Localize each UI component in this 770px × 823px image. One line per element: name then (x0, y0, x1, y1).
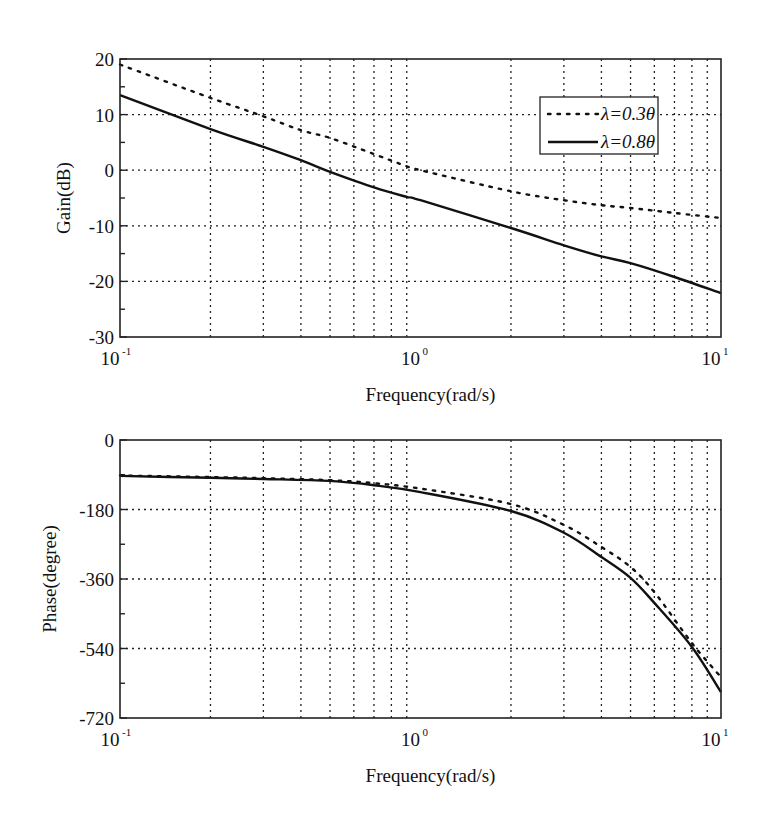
y-tick-label: 20 (95, 49, 114, 70)
y-axis-title: Phase(degree) (39, 525, 61, 633)
legend-label: λ=0.8θ (600, 131, 655, 152)
y-tick-labels: 0-180-360-540-720 (79, 430, 114, 729)
gain-plot: 20100-10-20-3010-1100101Frequency(rad/s)… (53, 49, 729, 406)
legend-label: λ=0.3θ (600, 103, 655, 124)
bode-plot-figure: 20100-10-20-3010-1100101Frequency(rad/s)… (0, 0, 770, 823)
x-tick-labels: 10-1100101 (101, 726, 729, 750)
x-tick-exponent: 0 (423, 726, 429, 738)
x-tick-exponent: -1 (122, 345, 131, 357)
x-tick-label: 10 (401, 729, 420, 750)
y-tick-label: -30 (89, 327, 114, 348)
x-tick-exponent: 1 (723, 345, 729, 357)
y-tick-label: -20 (89, 271, 114, 292)
x-tick-labels: 10-1100101 (101, 345, 729, 369)
y-tick-label: 0 (105, 430, 115, 451)
y-axis-title: Gain(dB) (53, 162, 75, 234)
y-tick-label: 10 (95, 105, 114, 126)
legend: λ=0.3θλ=0.8θ (540, 97, 658, 154)
y-tick-label: -540 (79, 639, 114, 660)
x-tick-label: 10 (401, 348, 420, 369)
x-tick-label: 10 (101, 348, 120, 369)
x-tick-label: 10 (702, 348, 721, 369)
x-axis-title: Frequency(rad/s) (366, 384, 496, 406)
y-tick-label: -10 (89, 216, 114, 237)
series-lambda-0-3-theta (120, 476, 721, 678)
x-tick-exponent: 0 (423, 345, 429, 357)
y-tick-label: 0 (105, 160, 115, 181)
x-tick-exponent: -1 (122, 726, 131, 738)
y-tick-label: -360 (79, 569, 114, 590)
y-tick-label: -180 (79, 500, 114, 521)
series-lines (120, 476, 721, 693)
y-tick-labels: 20100-10-20-30 (89, 49, 114, 348)
y-tick-label: -720 (79, 708, 114, 729)
x-tick-label: 10 (702, 729, 721, 750)
phase-plot: 0-180-360-540-72010-1100101Frequency(rad… (39, 430, 729, 787)
x-tick-label: 10 (101, 729, 120, 750)
x-axis-title: Frequency(rad/s) (366, 765, 496, 787)
x-tick-exponent: 1 (723, 726, 729, 738)
